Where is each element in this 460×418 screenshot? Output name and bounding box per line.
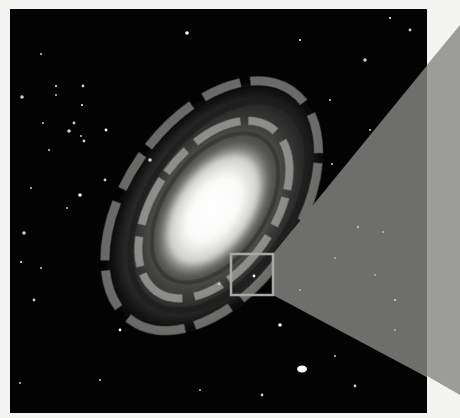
star [55,94,57,96]
star [22,231,26,235]
star [66,207,68,209]
bright-star [297,366,307,373]
star [40,53,42,55]
star [55,85,57,87]
star [369,129,371,131]
star [20,95,24,99]
star [40,267,42,269]
star [80,135,82,137]
star [261,394,264,397]
star [81,104,83,106]
star [299,39,301,41]
star [73,122,76,125]
star [83,140,86,143]
star [119,329,122,332]
galaxy-figure [0,0,460,418]
projection-cone-outer [427,25,460,395]
star [409,29,412,32]
star [20,261,22,263]
galaxy-image [0,0,460,418]
star [105,129,108,132]
star [42,122,44,124]
star [78,193,82,197]
star [48,149,50,151]
star [148,158,152,162]
star [30,187,32,189]
star [354,385,357,388]
star [218,283,220,285]
star [33,299,36,302]
star [389,17,391,19]
star [394,299,396,301]
star [363,58,367,62]
star [104,179,107,182]
star [19,382,21,384]
star [199,389,201,391]
star [331,163,333,165]
star [185,31,189,35]
star [334,355,336,357]
star [67,129,71,133]
star [82,85,85,88]
star [99,379,101,381]
star [278,323,282,327]
star [329,99,331,101]
star [253,275,256,278]
